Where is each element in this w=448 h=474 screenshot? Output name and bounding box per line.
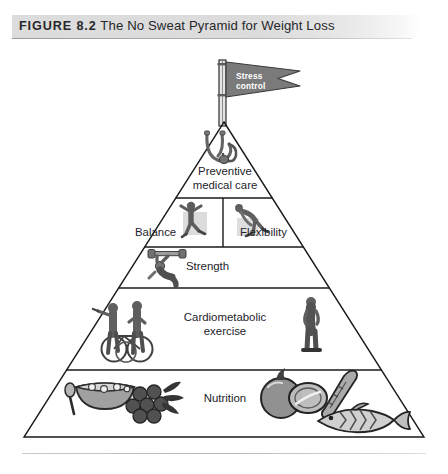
footer-divider xyxy=(22,453,426,454)
flag-line-1: Stress xyxy=(236,71,263,81)
tier-label-strength: Strength xyxy=(186,260,276,274)
flag-line-2: control xyxy=(236,81,265,91)
cyclists-icon xyxy=(93,301,153,362)
stress-control-label: Stresscontrol xyxy=(236,71,288,91)
tier-label-balance: Balance xyxy=(135,226,207,240)
tier-label-flexibility: Flexibility xyxy=(240,226,320,240)
tier-label-preventive-medical-care: Preventive medical care xyxy=(160,165,290,192)
onion-slice-icon xyxy=(289,383,327,413)
tier-label-nutrition: Nutrition xyxy=(178,392,272,406)
cereal-bowl-icon xyxy=(65,383,134,414)
weightlifter-icon xyxy=(148,250,186,286)
stethoscope-icon xyxy=(205,131,237,164)
walker-icon xyxy=(303,297,320,350)
tier-label-cardiometabolic-exercise: Cardiometabolic exercise xyxy=(160,311,290,338)
